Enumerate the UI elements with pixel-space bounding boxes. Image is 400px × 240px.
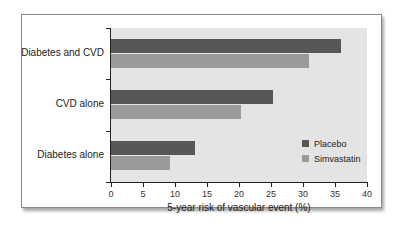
category-label: Diabetes alone [37, 149, 104, 160]
x-tick-label: 0 [101, 189, 121, 199]
legend-item-placebo: Placebo [302, 136, 361, 151]
x-tick-label: 25 [261, 189, 281, 199]
x-tick-label: 10 [165, 189, 185, 199]
x-tick-label: 20 [229, 189, 249, 199]
y-tick [106, 79, 110, 80]
x-tick [175, 183, 176, 187]
legend-swatch-placebo [302, 140, 309, 147]
x-tick-label: 40 [357, 189, 377, 199]
bar-placebo-1 [111, 90, 273, 104]
x-tick-label: 35 [325, 189, 345, 199]
y-axis [110, 28, 111, 183]
legend-item-simvastatin: Simvastatin [302, 151, 361, 166]
x-tick [207, 183, 208, 187]
x-tick-label: 5 [133, 189, 153, 199]
x-axis-title: 5-year risk of vascular event (%) [111, 202, 367, 213]
category-label: CVD alone [56, 98, 104, 109]
bar-placebo-0 [111, 39, 341, 53]
category-label: Diabetes and CVD [21, 47, 104, 58]
bar-simvastatin-1 [111, 105, 241, 119]
bar-simvastatin-0 [111, 54, 309, 68]
x-tick [367, 183, 368, 187]
x-tick [143, 183, 144, 187]
x-tick [303, 183, 304, 187]
legend-label-simvastatin: Simvastatin [314, 154, 361, 164]
y-tick [106, 182, 110, 183]
legend: Placebo Simvastatin [302, 136, 361, 166]
x-tick [335, 183, 336, 187]
x-tick [271, 183, 272, 187]
bar-placebo-2 [111, 141, 195, 155]
y-tick [106, 28, 110, 29]
y-tick [106, 131, 110, 132]
legend-swatch-simvastatin [302, 155, 309, 162]
x-tick [239, 183, 240, 187]
x-tick [111, 183, 112, 187]
legend-label-placebo: Placebo [314, 139, 347, 149]
x-tick-label: 15 [197, 189, 217, 199]
x-tick-label: 30 [293, 189, 313, 199]
bar-simvastatin-2 [111, 156, 170, 170]
